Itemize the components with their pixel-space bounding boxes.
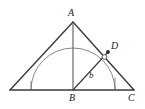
triangle-side-left bbox=[10, 22, 73, 90]
segment-length-label-b: b bbox=[89, 71, 94, 80]
vertex-label-b: B bbox=[69, 93, 75, 103]
point-d-dot-icon bbox=[106, 50, 110, 54]
vertex-label-c: C bbox=[128, 93, 135, 103]
vertex-label-d: D bbox=[111, 41, 118, 51]
right-angle-marker-icon bbox=[102, 55, 107, 60]
vertex-label-a: A bbox=[68, 8, 74, 18]
geometry-figure: A B C D b bbox=[0, 0, 145, 109]
